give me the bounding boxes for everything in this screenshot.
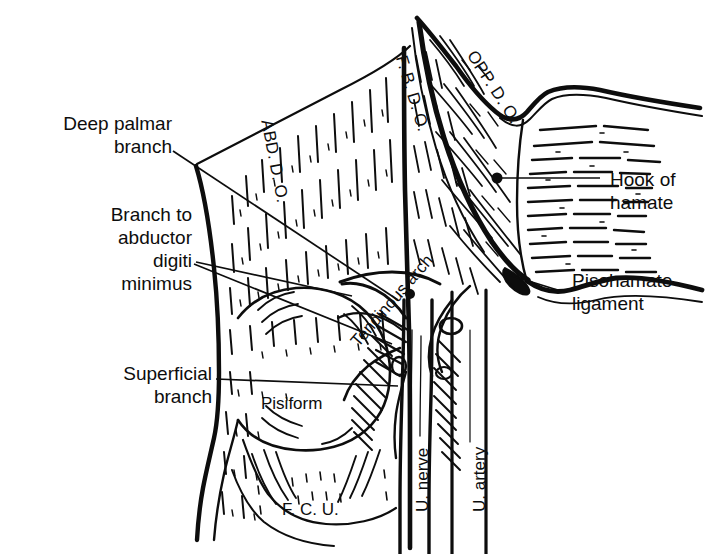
label-pisiform: Pisiform <box>261 394 322 414</box>
palm-ulnar-border <box>196 166 219 540</box>
guyon-canal-hatching <box>352 336 460 470</box>
pisiform-lower-contour <box>214 420 238 540</box>
label-pisohamate-ligament: Pisohamate ligament <box>572 269 706 315</box>
label-u-artery: U. artery <box>470 447 490 512</box>
pisiform-striations <box>258 292 376 444</box>
label-u-nerve: U. nerve <box>413 448 433 512</box>
fcu-striations <box>252 450 380 504</box>
label-branch-to-abductor-digiti-minimus: Branch to abductor digiti minimus <box>44 203 192 295</box>
label-superficial-branch: Superficial branch <box>60 362 212 408</box>
label-f-c-u: F. C. U. <box>282 500 339 520</box>
hamate-hook-left-edge <box>517 120 527 282</box>
label-deep-palmar-branch: Deep palmar branch <box>22 112 172 158</box>
dot-hook-of-hamate <box>492 173 503 184</box>
anatomical-figure: Deep palmar branch Branch to abductor di… <box>0 0 706 554</box>
label-hook-of-hamate: Hook of hamate <box>610 168 706 214</box>
nerve-fascicle-2 <box>420 336 421 436</box>
abd-fan-upper-edge <box>197 46 410 164</box>
leader-branch-to-abd-upper <box>196 262 352 296</box>
abd-muscle-stipple <box>232 110 387 520</box>
